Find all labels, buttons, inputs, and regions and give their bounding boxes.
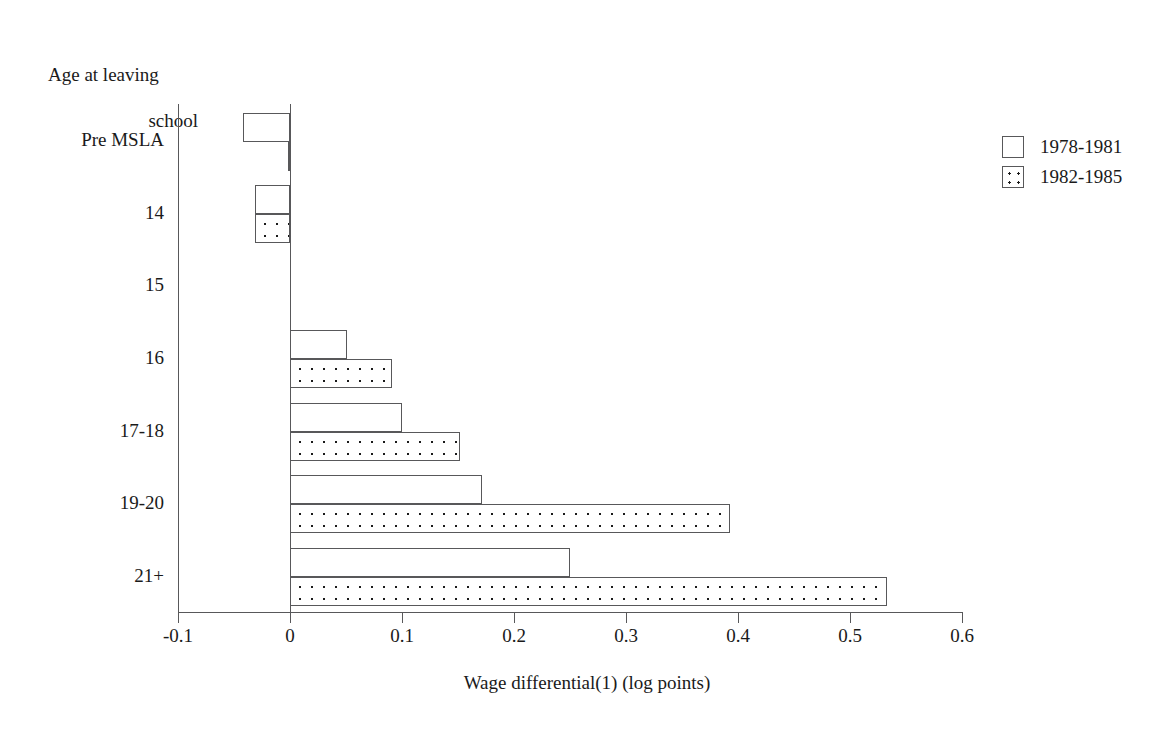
y-axis-title-line1: Age at leaving	[48, 63, 198, 86]
legend: 1978-1981 1982-1985	[1002, 132, 1122, 192]
legend-label-1978-1981: 1978-1981	[1040, 136, 1122, 158]
x-axis-tick	[178, 612, 179, 623]
x-axis-tick	[850, 612, 851, 623]
bar	[290, 548, 570, 577]
bar	[290, 403, 402, 432]
y-axis-category-label: 21+	[134, 565, 164, 587]
x-axis-tick-label: 0.6	[950, 625, 974, 647]
bar	[288, 142, 290, 171]
plot-area: -0.100.10.20.30.40.50.6Pre MSLA14151617-…	[178, 104, 962, 612]
x-axis-tick	[402, 612, 403, 623]
y-axis-category-label: 19-20	[120, 492, 164, 514]
x-axis-tick-label: -0.1	[163, 625, 193, 647]
legend-item-series-b: 1982-1985	[1002, 162, 1122, 192]
x-axis-tick	[290, 612, 291, 623]
bar	[290, 432, 460, 461]
x-axis-tick	[962, 612, 963, 623]
x-axis-tick-label: 0.4	[726, 625, 750, 647]
legend-swatch-1982-1985	[1002, 166, 1024, 188]
x-axis-tick-label: 0.1	[390, 625, 414, 647]
y-axis-spine	[178, 104, 179, 612]
y-axis-category-label: Pre MSLA	[81, 129, 164, 151]
x-axis-tick-label: 0.2	[502, 625, 526, 647]
bar	[290, 504, 730, 533]
x-axis-tick	[738, 612, 739, 623]
chart-figure: Age at leaving school -0.100.10.20.30.40…	[0, 0, 1174, 736]
bar	[255, 185, 290, 214]
legend-item-series-a: 1978-1981	[1002, 132, 1122, 162]
bar	[290, 577, 887, 606]
bar	[290, 475, 482, 504]
x-axis-tick	[514, 612, 515, 623]
legend-label-1982-1985: 1982-1985	[1040, 166, 1122, 188]
x-axis-title: Wage differential(1) (log points)	[0, 672, 1174, 694]
bar	[290, 359, 392, 388]
x-axis-tick	[626, 612, 627, 623]
x-axis-tick-label: 0	[285, 625, 295, 647]
x-axis-tick-label: 0.5	[838, 625, 862, 647]
y-axis-category-label: 16	[145, 347, 164, 369]
y-axis-category-label: 17-18	[120, 420, 164, 442]
bar	[243, 113, 290, 142]
x-axis-spine	[178, 612, 962, 613]
legend-swatch-1978-1981	[1002, 136, 1024, 158]
bar	[290, 330, 347, 359]
x-axis-tick-label: 0.3	[614, 625, 638, 647]
bar	[255, 214, 290, 243]
y-axis-category-label: 14	[145, 202, 164, 224]
y-axis-category-label: 15	[145, 274, 164, 296]
